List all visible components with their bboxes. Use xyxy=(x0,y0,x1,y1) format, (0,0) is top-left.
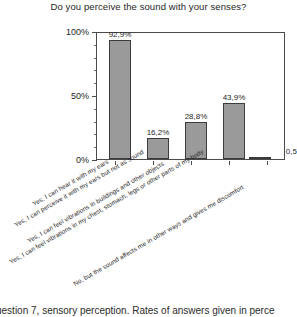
bar-value-2: 28,8% xyxy=(185,112,208,121)
x-tick-2 xyxy=(191,161,192,165)
bar-1: 16,2% xyxy=(147,138,169,159)
y-minor-tick-70 xyxy=(94,70,96,71)
y-minor-tick-90 xyxy=(94,45,96,46)
y-major-tick-100 xyxy=(92,32,96,33)
y-tick-label-100: 100% xyxy=(66,27,89,37)
y-minor-tick-40 xyxy=(94,109,96,110)
y-minor-tick-60 xyxy=(94,83,96,84)
x-tick-3 xyxy=(229,161,230,165)
y-minor-tick-20 xyxy=(94,134,96,135)
bar-value-1: 16,2% xyxy=(147,128,170,137)
y-axis: 100% 50% 0% xyxy=(96,32,97,161)
bar-0: 92,9% xyxy=(109,40,131,159)
y-minor-tick-80 xyxy=(94,58,96,59)
y-minor-tick-30 xyxy=(94,122,96,123)
chart-title: Do you perceive the sound with your sens… xyxy=(0,1,297,12)
bar-value-3: 43,9% xyxy=(223,93,246,102)
figure-caption: uestion 7, sensory perception. Rates of … xyxy=(0,305,297,316)
y-tick-label-0: 0% xyxy=(76,155,89,165)
y-major-tick-0 xyxy=(92,160,96,161)
y-tick-label-50: 50% xyxy=(71,91,89,101)
x-tick-4 xyxy=(267,161,268,165)
bar-value-0: 92,9% xyxy=(109,30,132,39)
bar-4: 0,5% xyxy=(249,157,271,159)
plot-area: 92,9% 16,2% 28,8% 43,9% 0,5% xyxy=(96,32,285,160)
bar-value-4: 0,5% xyxy=(286,147,297,156)
y-major-tick-50 xyxy=(92,96,96,97)
y-minor-tick-10 xyxy=(94,147,96,148)
bar-3: 43,9% xyxy=(223,103,245,159)
